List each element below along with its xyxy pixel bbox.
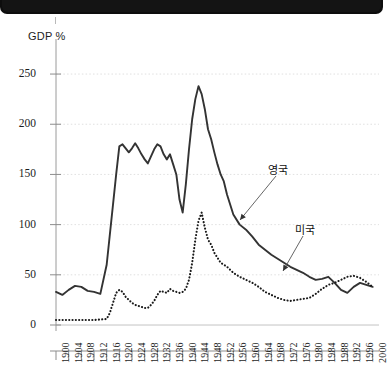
black-title-bar (0, 0, 383, 14)
x-tick-label: 1924 (136, 342, 147, 363)
x-tick-label: 1952 (225, 342, 236, 363)
us-annotation-label: 미국 (295, 221, 315, 237)
black-title-bar-inner (2, 0, 381, 12)
x-tick-label: 2000 (377, 342, 388, 363)
x-tick-label: 1940 (187, 342, 198, 363)
x-tick-label: 1988 (339, 342, 350, 363)
x-tick-label: 1972 (288, 342, 299, 363)
x-tick-label: 1996 (364, 342, 375, 363)
x-tick-label: 1904 (73, 342, 84, 363)
x-tick-label: 1916 (111, 342, 122, 363)
x-tick-label: 1920 (123, 342, 134, 363)
x-tick-label: 1928 (149, 342, 160, 363)
x-tick-label: 1984 (326, 342, 337, 363)
x-tick-label: 1956 (237, 342, 248, 363)
x-tick-label: 1980 (313, 342, 324, 363)
x-tick-label: 1908 (85, 342, 96, 363)
x-tick-label: 1992 (351, 342, 362, 363)
x-tick-label: 1944 (199, 342, 210, 363)
x-tick-label: 1964 (263, 342, 274, 363)
x-tick-label: 1912 (98, 342, 109, 363)
x-tick-label: 1976 (301, 342, 312, 363)
x-tick-label: 1936 (174, 342, 185, 363)
gdp-chart: GDP % 050100150200250 190019041908191219… (0, 14, 383, 388)
x-tick-label: 1960 (250, 342, 261, 363)
x-axis-tick-labels: 1900190419081912191619201924192819321936… (0, 14, 383, 388)
uk-annotation-label: 영국 (268, 161, 288, 177)
x-tick-label: 1948 (212, 342, 223, 363)
x-tick-label: 1900 (60, 342, 71, 363)
x-tick-label: 1968 (275, 342, 286, 363)
x-tick-label: 1932 (161, 342, 172, 363)
